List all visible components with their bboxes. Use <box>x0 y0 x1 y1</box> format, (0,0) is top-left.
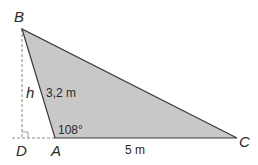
point-label-a: A <box>50 142 61 159</box>
side-ab-label: 3,2 m <box>46 86 76 100</box>
right-angle-marker <box>22 132 28 138</box>
triangle-abc <box>22 29 237 138</box>
point-label-b: B <box>14 8 24 25</box>
triangle-diagram: B h 3,2 m 108° D A 5 m C <box>0 0 258 165</box>
side-ac-label: 5 m <box>125 143 145 157</box>
point-label-c: C <box>239 133 250 150</box>
height-label: h <box>26 84 34 101</box>
point-label-d: D <box>16 142 27 159</box>
angle-a-label: 108° <box>58 123 83 137</box>
